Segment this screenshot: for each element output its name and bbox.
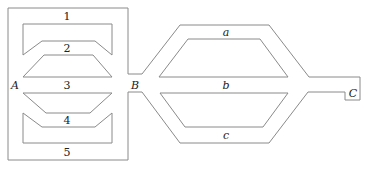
node-label-C: C (349, 87, 358, 100)
island-3-4 (23, 93, 112, 113)
path-label-b: b (222, 79, 229, 92)
island-b-c (160, 93, 288, 127)
right-outer-upper-boundary (128, 25, 360, 143)
path-label-1: 1 (64, 10, 71, 23)
island-a-b (159, 39, 288, 77)
path-label-a: a (223, 26, 230, 39)
island-2-3 (23, 55, 112, 77)
path-label-3: 3 (64, 79, 71, 92)
path-label-c: c (223, 129, 229, 142)
path-label-2: 2 (64, 42, 71, 55)
channel-network-diagram: 1 2 3 4 5 a b c A B C (0, 0, 370, 169)
left-outer-boundary (8, 8, 142, 160)
node-label-A: A (10, 79, 19, 92)
path-label-5: 5 (64, 146, 71, 159)
path-label-4: 4 (64, 114, 71, 127)
node-label-B: B (130, 79, 139, 92)
